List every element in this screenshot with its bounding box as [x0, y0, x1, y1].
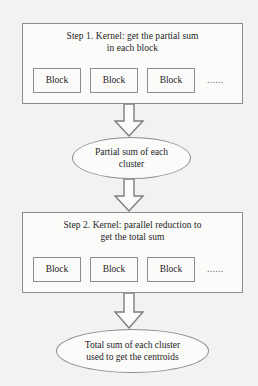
step-1-title-line-1: Step 1. Kernel: get the partial sum — [67, 31, 199, 41]
partial-sum-ellipse: Partial sum of each cluster — [72, 137, 191, 179]
step-1-title: Step 1. Kernel: get the partial sum in e… — [29, 30, 236, 55]
step-2-container: Step 2. Kernel: parallel reduction to ge… — [22, 212, 243, 293]
step-2-title-line-1: Step 2. Kernel: parallel reduction to — [64, 220, 202, 230]
partial-sum-text: Partial sum of each cluster — [87, 146, 176, 171]
total-sum-ellipse: Total sum of each cluster used to get th… — [56, 329, 209, 373]
block-box: Block — [147, 68, 195, 93]
block-box: Block — [33, 68, 81, 93]
step-2-ellipsis: ...... — [207, 257, 224, 282]
total-sum-line-1: Total sum of each cluster — [85, 340, 180, 350]
step-1-ellipsis: ...... — [207, 68, 224, 93]
block-box: Block — [90, 257, 138, 282]
arrow-down-icon — [113, 179, 145, 212]
step-1-container: Step 1. Kernel: get the partial sum in e… — [22, 23, 243, 104]
step-1-block-row: Block Block Block ...... — [33, 68, 234, 93]
step-2-block-row: Block Block Block ...... — [33, 257, 234, 282]
partial-sum-line-1: Partial sum of each — [95, 147, 168, 157]
arrow-down-icon — [113, 104, 145, 137]
block-box: Block — [147, 257, 195, 282]
total-sum-text: Total sum of each cluster used to get th… — [77, 339, 188, 364]
arrow-down-icon — [113, 293, 145, 329]
block-box: Block — [33, 257, 81, 282]
block-box: Block — [90, 68, 138, 93]
total-sum-line-2: used to get the centroids — [86, 352, 178, 362]
step-2-title: Step 2. Kernel: parallel reduction to ge… — [29, 219, 236, 244]
partial-sum-line-2: cluster — [119, 159, 144, 169]
step-1-title-line-2: in each block — [107, 43, 158, 53]
step-2-title-line-2: get the total sum — [101, 232, 165, 242]
flowchart-diagram: Step 1. Kernel: get the partial sum in e… — [0, 0, 258, 386]
